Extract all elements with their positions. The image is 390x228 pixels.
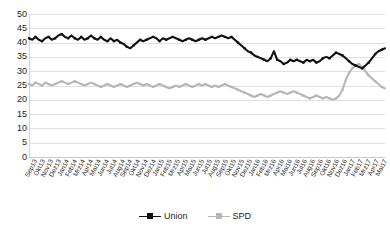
y-tick-label: 5 bbox=[1, 138, 27, 147]
legend-item-spd[interactable]: SPD bbox=[208, 212, 252, 221]
series-layer bbox=[29, 14, 385, 157]
legend-label-spd: SPD bbox=[233, 212, 252, 221]
y-tick-label: 40 bbox=[1, 38, 27, 47]
series-spd bbox=[28, 64, 385, 100]
y-tick-label: 15 bbox=[1, 110, 27, 119]
legend-item-union[interactable]: Union bbox=[139, 212, 188, 221]
y-axis: 05101520253035404550 bbox=[0, 0, 27, 228]
y-tick-label: 45 bbox=[1, 24, 27, 33]
y-tick-label: 30 bbox=[1, 67, 27, 76]
legend-swatch-spd-icon bbox=[208, 212, 230, 221]
y-tick-label: 10 bbox=[1, 124, 27, 133]
legend-label-union: Union bbox=[164, 212, 188, 221]
y-tick-label: 35 bbox=[1, 52, 27, 61]
y-tick-label: 0 bbox=[1, 153, 27, 162]
poll-trend-chart: 05101520253035404550 Sep13Okt13Nov13Dez1… bbox=[0, 0, 390, 228]
chart-legend: Union SPD bbox=[0, 207, 390, 225]
series-union bbox=[28, 33, 385, 70]
legend-swatch-union-icon bbox=[139, 212, 161, 221]
y-tick-label: 20 bbox=[1, 95, 27, 104]
x-axis: Sep13Okt13Nov13Dez13Jan14Feb14Mrz14Apr14… bbox=[29, 158, 385, 206]
y-tick-label: 50 bbox=[1, 10, 27, 19]
y-tick-label: 25 bbox=[1, 81, 27, 90]
